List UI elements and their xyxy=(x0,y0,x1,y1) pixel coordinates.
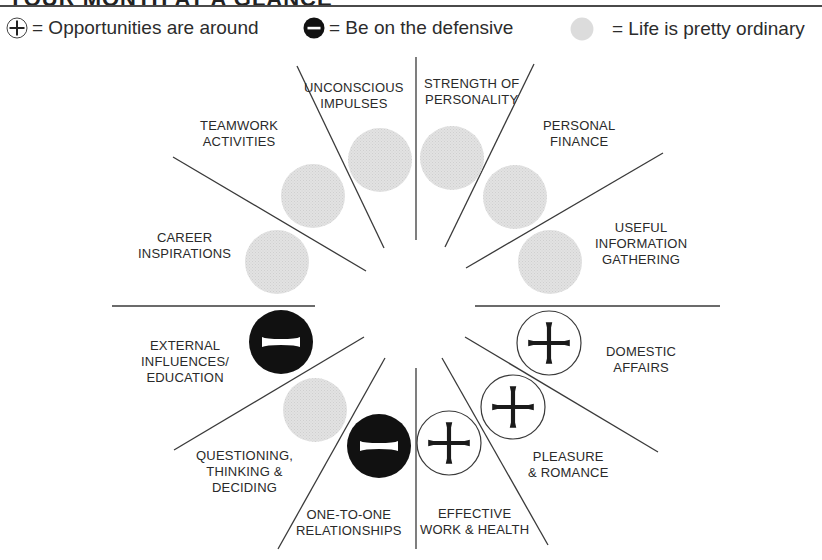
sector-label-finance: PERSONAL FINANCE xyxy=(543,118,615,150)
plus-circle-icon-domestic xyxy=(517,311,581,375)
status-dot-teamwork xyxy=(281,164,345,228)
sector-label-unconscious: UNCONSCIOUS IMPULSES xyxy=(304,80,404,112)
label-line: AFFAIRS xyxy=(606,360,676,376)
label-line: INFLUENCES/ xyxy=(141,354,229,370)
label-line: INFORMATION xyxy=(595,236,687,252)
label-line: IMPULSES xyxy=(304,96,404,112)
label-line: PERSONALITY xyxy=(424,92,519,108)
label-line: PERSONAL xyxy=(543,118,615,134)
label-line: TEAMWORK xyxy=(200,118,278,134)
label-line: INSPIRATIONS xyxy=(138,246,231,262)
plus-circle-icon-pleasure xyxy=(481,375,545,439)
status-dot-career xyxy=(245,230,309,294)
label-line: RELATIONSHIPS xyxy=(296,523,402,539)
label-line: CAREER xyxy=(138,230,231,246)
status-dot-strength xyxy=(420,126,484,190)
label-line: THINKING & xyxy=(196,464,293,480)
sector-label-questioning: QUESTIONING, THINKING & DECIDING xyxy=(196,448,293,496)
label-line: USEFUL xyxy=(595,220,687,236)
label-line: STRENGTH OF xyxy=(424,76,519,92)
sector-label-domestic: DOMESTIC AFFAIRS xyxy=(606,344,676,376)
sector-label-external: EXTERNAL INFLUENCES/ EDUCATION xyxy=(141,338,229,386)
label-line: EDUCATION xyxy=(141,370,229,386)
minus-circle-icon-external xyxy=(249,310,313,374)
label-line: EFFECTIVE xyxy=(420,506,529,522)
status-dot-finance xyxy=(483,165,547,229)
label-line: DOMESTIC xyxy=(606,344,676,360)
sector-label-teamwork: TEAMWORK ACTIVITIES xyxy=(200,118,278,150)
sector-label-pleasure: PLEASURE & ROMANCE xyxy=(528,449,609,481)
label-line: WORK & HEALTH xyxy=(420,522,529,538)
status-dot-questioning xyxy=(283,378,347,442)
sector-label-relationships: ONE-TO-ONE RELATIONSHIPS xyxy=(296,507,402,539)
label-line: QUESTIONING, xyxy=(196,448,293,464)
plus-circle-icon-work xyxy=(417,411,481,475)
sector-label-strength: STRENGTH OF PERSONALITY xyxy=(424,76,519,108)
wheel-diagram xyxy=(0,0,822,560)
label-line: ACTIVITIES xyxy=(200,134,278,150)
label-line: EXTERNAL xyxy=(141,338,229,354)
sector-label-information: USEFUL INFORMATION GATHERING xyxy=(595,220,687,268)
sector-label-work: EFFECTIVE WORK & HEALTH xyxy=(420,506,529,538)
status-dot-information xyxy=(518,230,582,294)
label-line: GATHERING xyxy=(595,252,687,268)
sector-label-career: CAREER INSPIRATIONS xyxy=(138,230,231,262)
label-line: DECIDING xyxy=(196,480,293,496)
label-line: & ROMANCE xyxy=(528,465,609,481)
label-line: PLEASURE xyxy=(528,449,609,465)
label-line: ONE-TO-ONE xyxy=(296,507,402,523)
status-dot-unconscious xyxy=(348,128,412,192)
label-line: UNCONSCIOUS xyxy=(304,80,404,96)
minus-circle-icon-relationships xyxy=(347,414,411,478)
label-line: FINANCE xyxy=(543,134,615,150)
